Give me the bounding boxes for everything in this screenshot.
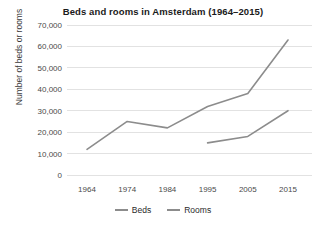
y-tick-label: 70,000 — [38, 21, 63, 30]
x-axis-tick-labels: 196419741984199520052015 — [78, 185, 297, 194]
y-tick-label: 30,000 — [38, 107, 63, 116]
legend-item-rooms: Rooms — [167, 205, 211, 215]
y-tick-label: 0 — [58, 171, 63, 180]
legend-swatch-rooms — [167, 209, 180, 211]
series-line-rooms — [208, 111, 288, 143]
y-tick-label: 10,000 — [38, 150, 63, 159]
legend-label-beds: Beds — [132, 205, 151, 215]
y-tick-label: 20,000 — [38, 128, 63, 137]
gridlines — [67, 25, 312, 175]
chart-container: Beds and rooms in Amsterdam (1964–2015) … — [0, 0, 326, 230]
y-tick-label: 60,000 — [38, 42, 63, 51]
chart-legend: Beds Rooms — [0, 205, 326, 215]
x-tick-label: 1984 — [159, 185, 177, 194]
legend-item-beds: Beds — [115, 205, 151, 215]
y-tick-label: 40,000 — [38, 85, 63, 94]
legend-label-rooms: Rooms — [184, 205, 211, 215]
series-line-beds — [87, 40, 288, 149]
x-tick-label: 1974 — [118, 185, 136, 194]
chart-plot-area: 010,00020,00030,00040,00050,00060,00070,… — [0, 0, 326, 230]
data-series-lines — [87, 40, 288, 149]
y-tick-label: 50,000 — [38, 64, 63, 73]
x-tick-label: 2005 — [239, 185, 257, 194]
y-axis-tick-labels: 010,00020,00030,00040,00050,00060,00070,… — [38, 21, 63, 180]
x-tick-label: 2015 — [279, 185, 297, 194]
x-tick-label: 1995 — [199, 185, 217, 194]
legend-swatch-beds — [115, 209, 128, 211]
x-tick-label: 1964 — [78, 185, 96, 194]
